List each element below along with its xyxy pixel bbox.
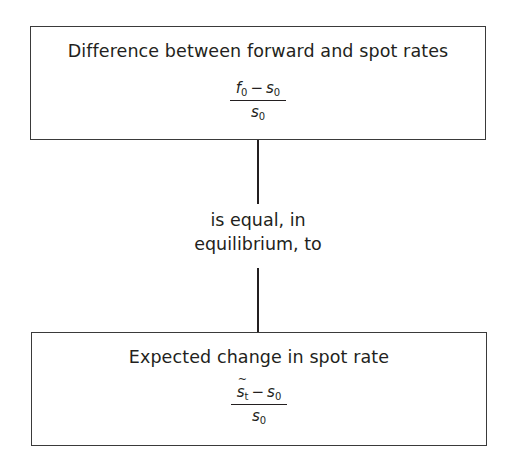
connector-line-lower — [257, 268, 259, 332]
minus-operator: − — [248, 383, 267, 401]
expected-spot-change-box: Expected change in spot rate st−s0 s0 — [31, 332, 487, 446]
expected-spot-change-title: Expected change in spot rate — [32, 347, 486, 367]
var-s-tilde: s — [237, 383, 245, 401]
expected-change-formula: st−s0 s0 — [32, 383, 486, 426]
forward-spot-difference-title: Difference between forward and spot rate… — [31, 41, 485, 61]
formula-denominator: s0 — [251, 101, 265, 122]
formula-numerator: f0−s0 — [230, 79, 286, 101]
equilibrium-relation-label: is equal, in equilibrium, to — [158, 208, 358, 256]
var-s: s — [266, 79, 274, 97]
minus-operator: − — [247, 79, 266, 97]
formula-numerator: st−s0 — [231, 383, 288, 405]
formula-denominator: s0 — [252, 405, 266, 426]
forward-spot-difference-box: Difference between forward and spot rate… — [30, 26, 486, 140]
forward-premium-formula: f0−s0 s0 — [31, 79, 485, 122]
connector-line-upper — [257, 140, 259, 204]
var-s: s — [267, 383, 275, 401]
